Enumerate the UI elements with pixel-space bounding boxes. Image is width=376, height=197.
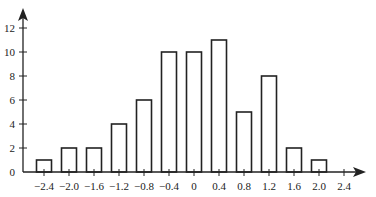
x-tick-label: −0.8 [134, 180, 154, 192]
bar-0 [187, 52, 202, 172]
y-tick-label: 4 [10, 118, 16, 130]
x-tick-label: 2.0 [312, 180, 326, 192]
histogram-chart: −2.4−2.0−1.6−1.2−0.8−0.400.40.81.21.62.0… [0, 0, 376, 197]
bar-neg1_6 [87, 148, 102, 172]
x-tick-label: 0.4 [212, 180, 226, 192]
y-tick-label: 2 [10, 142, 16, 154]
bar-neg0_8 [137, 100, 152, 172]
x-tick-label: 0.8 [237, 180, 251, 192]
x-tick-label: 2.4 [337, 180, 351, 192]
x-tick-label: −2.0 [59, 180, 79, 192]
bar-neg1_2 [112, 124, 127, 172]
bar-1_6 [287, 148, 302, 172]
x-tick-label: −1.6 [84, 180, 104, 192]
x-tick-label: −1.2 [109, 180, 129, 192]
x-tick-label: 0 [191, 180, 197, 192]
y-tick-label: 0 [10, 166, 16, 178]
bars-group [37, 40, 327, 172]
bar-neg0_4 [162, 52, 177, 172]
x-tick-label: −0.4 [159, 180, 179, 192]
x-tick-label: 1.6 [287, 180, 301, 192]
bar-1_2 [262, 76, 277, 172]
bar-neg2 [62, 148, 77, 172]
y-tick-label: 8 [10, 70, 16, 82]
y-tick-label: 12 [4, 22, 15, 34]
x-tick-label: 1.2 [262, 180, 276, 192]
x-tick-label: −2.4 [34, 180, 54, 192]
y-tick-label: 6 [10, 94, 16, 106]
bar-0_4 [212, 40, 227, 172]
y-tick-label: 10 [4, 46, 16, 58]
bar-0_8 [237, 112, 252, 172]
